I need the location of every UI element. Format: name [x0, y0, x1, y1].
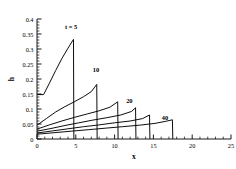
- y-tick-label: 0: [30, 136, 33, 143]
- curve-label: 10: [93, 66, 99, 73]
- figure-container: 0510152025 00.050.10.150.20.250.30.350.4…: [0, 0, 236, 169]
- x-tick-label: 20: [189, 142, 195, 149]
- x-axis-title: x: [132, 152, 136, 161]
- curve-label: t = 5: [65, 23, 77, 30]
- y-tick-label: 0.35: [22, 31, 33, 38]
- y-tick-label: 0.3: [26, 46, 34, 53]
- y-tick-label: 0.05: [22, 121, 33, 128]
- y-tick-label: 0.1: [26, 106, 34, 113]
- curve-label: 40: [162, 114, 168, 121]
- y-tick-label: 0.15: [22, 91, 33, 98]
- y-tick-label: 0.4: [26, 16, 35, 23]
- x-tick-label: 0: [35, 142, 38, 149]
- x-tick-label: 10: [111, 142, 117, 149]
- x-tick-label: 25: [228, 142, 234, 149]
- curve-label: 20: [126, 97, 132, 104]
- line-chart: 0510152025 00.050.10.150.20.250.30.350.4…: [0, 0, 236, 169]
- x-tick-label: 15: [150, 142, 156, 149]
- y-tick-label: 0.2: [26, 76, 34, 83]
- y-tick-label: 0.25: [22, 61, 33, 68]
- x-tick-label: 5: [74, 142, 77, 149]
